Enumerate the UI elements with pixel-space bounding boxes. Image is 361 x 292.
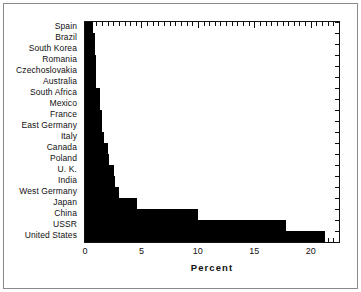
y-tick-label: South Korea	[29, 43, 77, 54]
x-tick-label: 0	[82, 245, 87, 257]
bar-romania	[85, 55, 96, 66]
x-axis-title: Percent	[84, 262, 340, 273]
bar-ussr	[85, 220, 286, 231]
bar-row	[85, 99, 339, 110]
bar-united-states	[85, 231, 325, 242]
y-tick-label: Japan	[53, 197, 77, 208]
bar-south-korea	[85, 44, 95, 55]
bar-u-k	[85, 165, 114, 176]
y-tick-label: USSR	[53, 219, 77, 230]
bar-row	[85, 44, 339, 55]
y-tick-label: Mexico	[49, 98, 77, 109]
bar-czechoslovakia	[85, 66, 96, 77]
bar-row	[85, 132, 339, 143]
bar-row	[85, 154, 339, 165]
y-tick-label: United States	[25, 230, 77, 241]
y-tick-label: East Germany	[21, 120, 77, 131]
y-tick-label: Australia	[43, 76, 77, 87]
y-tick-label: Poland	[50, 153, 77, 164]
bar-row	[85, 220, 339, 231]
bar-west-germany	[85, 187, 119, 198]
x-tick-label: 20	[306, 245, 316, 257]
bar-italy	[85, 132, 104, 143]
bar-france	[85, 110, 102, 121]
y-tick-label: India	[58, 175, 77, 186]
y-tick-label: Romania	[42, 54, 77, 65]
bar-china	[85, 209, 198, 220]
y-tick-label: U. K.	[58, 164, 77, 175]
bar-india	[85, 176, 115, 187]
bar-brazil	[85, 33, 95, 44]
y-axis-category-labels: SpainBrazilSouth KoreaRomaniaCzechoslova…	[0, 21, 81, 243]
bar-spain	[85, 22, 93, 33]
y-tick-label: Brazil	[55, 32, 77, 43]
y-tick-label: Czechoslovakia	[16, 65, 77, 76]
bar-row	[85, 66, 339, 77]
x-tick-label: 10	[193, 245, 203, 257]
bar-south-africa	[85, 88, 100, 99]
y-tick-label: South Africa	[30, 87, 77, 98]
bar-mexico	[85, 99, 100, 110]
bar-canada	[85, 143, 108, 154]
bar-row	[85, 22, 339, 33]
y-tick-label: Spain	[55, 21, 77, 32]
bar-australia	[85, 77, 96, 88]
y-tick-label: France	[50, 109, 77, 120]
bar-poland	[85, 154, 109, 165]
y-tick-label: China	[54, 208, 77, 219]
bar-row	[85, 143, 339, 154]
bar-row	[85, 209, 339, 220]
bar-row	[85, 110, 339, 121]
bar-row	[85, 33, 339, 44]
bar-row	[85, 121, 339, 132]
bar-row	[85, 176, 339, 187]
right-axis-tick	[335, 242, 339, 243]
y-tick-label: Italy	[61, 131, 77, 142]
bar-series	[85, 22, 339, 242]
x-axis-tick-labels: 05101520	[0, 245, 361, 259]
x-tick-label: 5	[139, 245, 144, 257]
x-tick-label: 15	[249, 245, 259, 257]
bar-row	[85, 187, 339, 198]
bar-japan	[85, 198, 137, 209]
bar-row	[85, 88, 339, 99]
y-tick-label: West Germany	[19, 186, 77, 197]
chart-figure: SpainBrazilSouth KoreaRomaniaCzechoslova…	[0, 0, 361, 292]
bar-row	[85, 165, 339, 176]
y-tick-label: Canada	[47, 142, 77, 153]
bar-row	[85, 77, 339, 88]
plot-area	[84, 21, 340, 243]
bar-row	[85, 231, 339, 242]
bar-row	[85, 198, 339, 209]
bar-row	[85, 55, 339, 66]
bottom-minor-tick	[339, 238, 340, 242]
bar-east-germany	[85, 121, 102, 132]
top-minor-tick	[339, 22, 340, 26]
